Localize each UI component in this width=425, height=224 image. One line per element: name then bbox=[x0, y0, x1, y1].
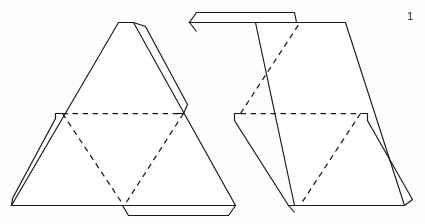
right-net-top-tab-left-notch bbox=[190, 23, 197, 32]
right-net-lower-left-tab-notch bbox=[289, 206, 295, 213]
left-net-bottom-trapezoid-tab bbox=[123, 206, 236, 216]
page-number: 1 bbox=[407, 11, 413, 22]
figure-stage: 1 bbox=[0, 0, 425, 224]
left-triangle-net bbox=[12, 23, 236, 216]
right-net-outline bbox=[256, 23, 405, 206]
right-net-top-trapezoid-tab bbox=[190, 13, 297, 23]
papercraft-net-figure bbox=[0, 0, 425, 224]
